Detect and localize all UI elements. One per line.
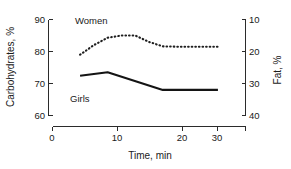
x-axis-title: Time, min	[128, 150, 172, 161]
series-annotation-girls: Girls	[70, 93, 90, 104]
left-tick-label-60: 60	[34, 110, 45, 121]
x-tick-label-0: 0	[49, 132, 54, 143]
x-axis: 0 10 20 30 Time, min	[49, 127, 245, 162]
right-axis: 10 20 30 40 Fat, %	[242, 14, 284, 121]
chart-canvas: 90 80 70 60 Carbohydrates, % 10 20 30 40…	[0, 0, 291, 169]
left-tick-label-90: 90	[34, 14, 45, 25]
right-axis-title: Fat, %	[272, 55, 283, 84]
right-axis-spine	[242, 20, 246, 116]
x-tick-label-10: 10	[112, 132, 123, 143]
x-axis-spine	[53, 127, 246, 131]
chart-figure: 90 80 70 60 Carbohydrates, % 10 20 30 40…	[0, 0, 291, 169]
left-axis-spine	[49, 20, 53, 116]
left-axis-title: Carbohydrates, %	[5, 27, 16, 107]
right-tick-label-10: 10	[249, 14, 260, 25]
series-group	[80, 36, 218, 90]
right-tick-label-20: 20	[249, 46, 260, 57]
left-tick-label-70: 70	[34, 78, 45, 89]
x-tick-label-20: 20	[177, 132, 188, 143]
series-line-girls	[80, 72, 218, 90]
left-tick-label-80: 80	[34, 46, 45, 57]
right-tick-label-30: 30	[249, 78, 260, 89]
series-line-women	[80, 36, 218, 55]
left-axis: 90 80 70 60 Carbohydrates, %	[5, 14, 53, 121]
x-tick-label-30: 30	[212, 132, 223, 143]
series-annotation-women: Women	[75, 15, 108, 26]
right-tick-label-40: 40	[249, 110, 260, 121]
